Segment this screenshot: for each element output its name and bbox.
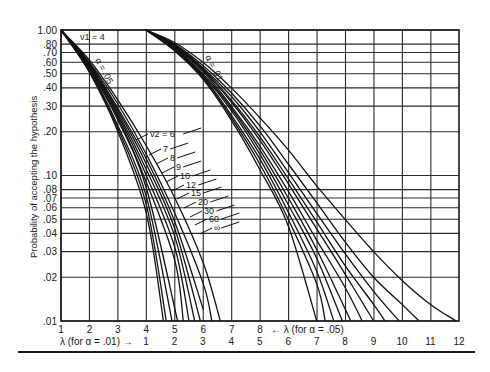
leader-left <box>195 219 207 225</box>
leader-right <box>221 222 239 228</box>
nu2-label: ∞ <box>214 223 220 233</box>
leader-left <box>190 211 202 217</box>
y-tick-label: .30 <box>43 101 57 112</box>
y-tick-label: .02 <box>43 272 57 283</box>
y-tick-label: .03 <box>43 246 57 257</box>
leader-right <box>221 213 239 219</box>
y-tick-label: .50 <box>43 68 57 79</box>
x-tick-alpha-01: 2 <box>172 336 178 347</box>
x-tick-alpha-05: 8 <box>257 324 263 335</box>
leader-right <box>183 128 201 134</box>
x-axis-label-alpha-01: λ (for α = .01) → <box>60 336 133 347</box>
x-tick-alpha-05: 4 <box>144 324 150 335</box>
nu2-label: 8 <box>170 153 175 163</box>
x-tick-alpha-01: 6 <box>285 336 291 347</box>
leader-right <box>177 152 195 158</box>
x-tick-alpha-05: 7 <box>229 324 235 335</box>
x-axis-label-alpha-05: ← λ (for α = .05) <box>271 324 344 335</box>
x-tick-alpha-01: 7 <box>314 336 320 347</box>
x-tick-alpha-05: 5 <box>172 324 178 335</box>
leader-right <box>210 196 228 202</box>
x-tick-alpha-01: 10 <box>396 336 408 347</box>
x-tick-alpha-01: 4 <box>229 336 235 347</box>
y-tick-label: 1.00 <box>38 25 58 36</box>
leader-right <box>183 161 201 167</box>
y-tick-label: .40 <box>43 82 57 93</box>
nu2-label: ν2 = 6 <box>150 129 175 139</box>
x-tick-alpha-05: 1 <box>58 324 64 335</box>
leader-left <box>166 176 178 182</box>
power-chart: 1.00.80.70.60.50.40.30.20.10.08.07.06.05… <box>0 0 490 372</box>
x-tick-alpha-05: 2 <box>87 324 93 335</box>
panel-label: ν1 = 4 <box>80 32 105 42</box>
leader-left <box>184 202 196 208</box>
y-tick-label: .06 <box>43 202 57 213</box>
y-axis-ticks: 1.00.80.70.60.50.40.30.20.10.08.07.06.05… <box>38 25 58 327</box>
leader-left <box>162 167 174 173</box>
x-tick-alpha-01: 5 <box>257 336 263 347</box>
leader-right <box>198 179 216 185</box>
x-tick-alpha-05: 6 <box>200 324 206 335</box>
x-tick-alpha-01: 12 <box>453 336 465 347</box>
y-tick-label: .01 <box>43 316 57 327</box>
x-tick-alpha-01: 9 <box>371 336 377 347</box>
y-tick-label: .04 <box>43 228 57 239</box>
y-tick-label: .05 <box>43 214 57 225</box>
leader-left <box>156 158 168 164</box>
x-tick-alpha-01: 3 <box>200 336 206 347</box>
x-tick-alpha-01: 1 <box>143 336 149 347</box>
nu2-label: 7 <box>163 144 168 154</box>
y-tick-label: .10 <box>43 170 57 181</box>
leader-left <box>149 149 161 155</box>
y-axis-label: Probability of accepting the hypothesis <box>28 96 39 258</box>
x-tick-alpha-05: 3 <box>115 324 121 335</box>
leader-right <box>170 143 188 149</box>
y-tick-label: .60 <box>43 57 57 68</box>
x-tick-alpha-01: 11 <box>425 336 436 347</box>
x-tick-alpha-01: 8 <box>342 336 348 347</box>
y-tick-label: .20 <box>43 126 57 137</box>
